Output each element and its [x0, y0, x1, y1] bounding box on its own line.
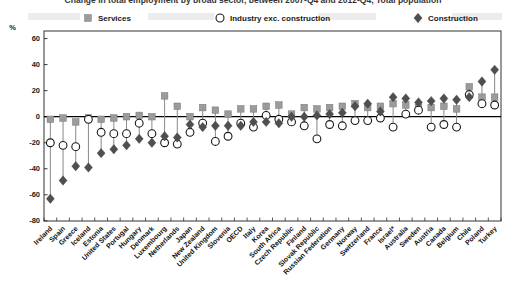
- services-square-marker: [60, 115, 67, 122]
- y-tick-label: 60: [32, 34, 40, 43]
- construction-diamond-marker: [440, 94, 448, 103]
- services-square-marker: [199, 104, 206, 111]
- services-square-marker: [491, 94, 498, 101]
- y-tick-label: 0: [36, 112, 40, 121]
- services-square-marker: [276, 102, 283, 109]
- services-square-marker: [85, 15, 92, 22]
- construction-diamond-marker: [46, 194, 54, 203]
- industry-circle-marker: [415, 106, 423, 114]
- industry-circle-marker: [427, 123, 435, 131]
- construction-diamond-marker: [211, 121, 219, 130]
- faded-text-artifact: [28, 13, 80, 20]
- industry-circle-marker: [85, 115, 93, 123]
- construction-diamond-marker: [59, 176, 67, 185]
- y-tick-label: -80: [29, 216, 40, 225]
- employment-change-by-sector-chart: Change in total employment by broad sect…: [0, 0, 507, 290]
- y-tick-label: -20: [29, 138, 40, 147]
- services-square-marker: [98, 116, 105, 123]
- cropped-figure-title: Change in total employment by broad sect…: [65, 0, 442, 5]
- services-square-marker: [123, 113, 130, 120]
- construction-diamond-marker: [123, 141, 131, 150]
- services-square-marker: [72, 119, 79, 126]
- industry-circle-marker: [224, 132, 232, 140]
- services-square-marker: [225, 111, 232, 118]
- industry-circle-marker: [216, 14, 224, 22]
- services-square-marker: [149, 113, 156, 120]
- construction-diamond-marker: [110, 145, 118, 154]
- industry-circle-marker: [59, 141, 67, 149]
- legend-label-diamond: Construction: [428, 14, 478, 23]
- services-square-marker: [301, 104, 308, 111]
- industry-circle-marker: [110, 130, 118, 138]
- services-square-marker: [441, 103, 448, 110]
- industry-circle-marker: [135, 119, 143, 127]
- construction-diamond-marker: [84, 163, 92, 172]
- industry-circle-marker: [148, 130, 156, 138]
- industry-circle-marker: [300, 122, 308, 130]
- screenshot-root: Change in total employment by broad sect…: [0, 0, 507, 290]
- construction-diamond-marker: [97, 148, 105, 157]
- construction-diamond-marker: [414, 13, 422, 23]
- industry-circle-marker: [97, 128, 105, 136]
- construction-diamond-marker: [478, 77, 486, 86]
- legend-label-circle: Industry exc. construction: [230, 14, 330, 23]
- construction-diamond-marker: [224, 121, 232, 130]
- services-square-marker: [212, 107, 219, 114]
- services-square-marker: [161, 93, 168, 100]
- industry-circle-marker: [364, 117, 372, 125]
- industry-circle-marker: [72, 143, 80, 151]
- services-square-marker: [174, 103, 181, 110]
- industry-circle-marker: [351, 117, 359, 125]
- y-tick-label: -60: [29, 190, 40, 199]
- services-square-marker: [453, 106, 460, 113]
- industry-circle-marker: [478, 100, 486, 108]
- construction-diamond-marker: [186, 120, 194, 129]
- industry-circle-marker: [453, 123, 461, 131]
- industry-circle-marker: [491, 101, 499, 109]
- construction-diamond-marker: [135, 134, 143, 143]
- industry-circle-marker: [326, 121, 334, 129]
- industry-circle-marker: [123, 130, 131, 138]
- construction-diamond-marker: [491, 65, 499, 74]
- services-square-marker: [47, 116, 54, 123]
- industry-circle-marker: [211, 138, 219, 146]
- industry-circle-marker: [402, 110, 410, 118]
- legend-label-square: Services: [98, 14, 131, 23]
- construction-diamond-marker: [72, 161, 80, 170]
- industry-circle-marker: [313, 135, 321, 143]
- y-tick-label: 20: [32, 86, 40, 95]
- construction-diamond-marker: [453, 95, 461, 104]
- industry-circle-marker: [338, 122, 346, 130]
- services-square-marker: [237, 106, 244, 113]
- construction-diamond-marker: [148, 138, 156, 147]
- industry-circle-marker: [389, 123, 397, 131]
- services-square-marker: [187, 113, 194, 120]
- construction-diamond-marker: [300, 112, 308, 121]
- y-axis-unit-label: %: [9, 23, 16, 32]
- industry-circle-marker: [186, 128, 194, 136]
- industry-circle-marker: [46, 139, 54, 147]
- faded-text-artifact: [148, 13, 214, 20]
- y-tick-label: -40: [29, 164, 40, 173]
- services-square-marker: [250, 106, 257, 113]
- services-square-marker: [136, 112, 143, 119]
- services-square-marker: [263, 103, 270, 110]
- services-square-marker: [466, 83, 473, 90]
- services-square-marker: [111, 115, 118, 122]
- industry-circle-marker: [440, 121, 448, 129]
- y-tick-label: 40: [32, 60, 40, 69]
